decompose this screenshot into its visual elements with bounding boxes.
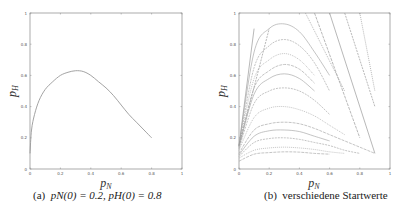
- svg-text:0.4: 0.4: [88, 171, 95, 176]
- trajectory-line: [239, 29, 254, 146]
- svg-text:0: 0: [238, 171, 241, 176]
- svg-text:0.6: 0.6: [326, 171, 333, 176]
- svg-text:0: 0: [29, 171, 32, 176]
- svg-text:0.2: 0.2: [266, 171, 273, 176]
- svg-text:1: 1: [24, 11, 27, 16]
- trajectory-line: [239, 152, 330, 161]
- svg-text:0.8: 0.8: [230, 42, 237, 47]
- svg-text:1: 1: [181, 171, 184, 176]
- svg-text:0.4: 0.4: [296, 171, 303, 176]
- trajectory-line: [330, 13, 375, 153]
- svg-text:0.2: 0.2: [21, 135, 28, 140]
- svg-text:0.6: 0.6: [21, 73, 28, 78]
- panel-a-ylabel: pH: [5, 84, 20, 98]
- svg-text:1: 1: [389, 171, 392, 176]
- panel-a-trajectory: [30, 71, 152, 154]
- svg-text:0.4: 0.4: [230, 104, 237, 109]
- svg-text:0.6: 0.6: [118, 171, 125, 176]
- trajectory-line: [239, 29, 269, 146]
- svg-text:0.8: 0.8: [357, 171, 364, 176]
- trajectory-line: [345, 13, 375, 107]
- svg-text:0: 0: [24, 167, 27, 172]
- panel-a-caption: (a) pN(0) = 0.2, pH(0) = 0.8: [33, 189, 162, 201]
- panel-a-caption-label: (a): [33, 189, 45, 201]
- panel-b-caption: (b) verschiedene Startwerte: [264, 189, 388, 201]
- svg-text:0.6: 0.6: [230, 73, 237, 78]
- figure: 00.20.40.60.8100.20.40.60.81 pN pH 00.20…: [0, 0, 400, 216]
- panel-a-caption-text: pN(0) = 0.2, pH(0) = 0.8: [51, 189, 162, 201]
- svg-text:0.8: 0.8: [21, 42, 28, 47]
- trajectory-line: [239, 106, 345, 150]
- svg-text:0.2: 0.2: [230, 135, 237, 140]
- panel-b-caption-label: (b): [264, 189, 277, 201]
- panel-b-trajectories: [239, 13, 375, 161]
- svg-text:0: 0: [233, 167, 236, 172]
- svg-text:0.8: 0.8: [148, 171, 155, 176]
- svg-text:0.4: 0.4: [21, 104, 28, 109]
- panel-b-axes: 00.20.40.60.8100.20.40.60.81 pN pH: [214, 11, 392, 192]
- panel-b-ylabel: pH: [214, 84, 229, 98]
- panel-b-caption-text: verschiedene Startwerte: [282, 189, 387, 201]
- svg-text:0.2: 0.2: [57, 171, 64, 176]
- svg-text:1: 1: [233, 11, 236, 16]
- trajectory-line: [239, 130, 330, 155]
- trajectory-line: [360, 13, 375, 91]
- panel-a-axes: 00.20.40.60.8100.20.40.60.81 pN pH: [5, 11, 184, 192]
- trajectory-line: [239, 147, 345, 158]
- trajectory-line: [239, 138, 360, 157]
